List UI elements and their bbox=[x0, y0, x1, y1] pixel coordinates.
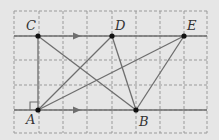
dashed-grid bbox=[14, 11, 207, 133]
arrow-icon bbox=[73, 107, 81, 114]
segments bbox=[38, 36, 184, 110]
point-B bbox=[133, 107, 138, 112]
label-E: E bbox=[186, 18, 197, 33]
segment-DB bbox=[112, 36, 136, 110]
segment-AD bbox=[38, 36, 112, 110]
point-A bbox=[35, 107, 40, 112]
geometry-diagram: C D E A B bbox=[0, 0, 219, 140]
label-A: A bbox=[25, 112, 35, 127]
point-C bbox=[35, 33, 40, 38]
point-E bbox=[181, 33, 186, 38]
label-C: C bbox=[26, 18, 36, 33]
point-D bbox=[109, 33, 114, 38]
label-D: D bbox=[114, 18, 126, 33]
segment-AE bbox=[38, 36, 184, 110]
arrow-icon bbox=[73, 33, 81, 40]
label-B: B bbox=[138, 114, 149, 129]
